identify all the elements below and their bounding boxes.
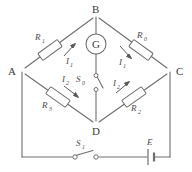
- resistor-r1-label: R 1: [34, 32, 45, 44]
- s1-subscript: 1: [82, 144, 85, 150]
- circuit-diagram: A B C D G R 1 R 0 R 3 R 2 I 1 I 1 I 2 I: [0, 0, 192, 172]
- resistor-r2-label: R 2: [130, 103, 141, 115]
- r2-letter: R: [130, 103, 137, 113]
- i1-bc-subscript: 1: [123, 63, 126, 69]
- battery-symbol: [148, 149, 154, 165]
- r1-letter: R: [34, 32, 41, 42]
- r2-subscript: 2: [138, 109, 141, 115]
- current-label-i2-dc: I 2: [112, 78, 120, 90]
- switch-main-terminal-right[interactable]: [94, 155, 98, 159]
- battery-label: E: [146, 137, 153, 147]
- node-label-B: B: [92, 3, 99, 15]
- r3-letter: R: [41, 100, 48, 110]
- i1-ab-subscript: 1: [70, 62, 73, 68]
- r0-letter: R: [136, 30, 143, 40]
- switch-bridge-label: S 0: [76, 74, 85, 86]
- node-label-D: D: [92, 125, 100, 137]
- resistor-r3-label: R 3: [41, 100, 52, 112]
- resistor-r3: [46, 87, 71, 108]
- galvanometer-label: G: [92, 38, 100, 50]
- node-label-A: A: [8, 65, 16, 77]
- switch-main-blade[interactable]: [77, 151, 94, 156]
- resistor-r0: [129, 39, 153, 60]
- branch-A-B: [25, 18, 93, 68]
- i2-dc-subscript: 2: [117, 84, 120, 90]
- current-arrow-i2-ad: [64, 86, 79, 98]
- i2-ad-subscript: 2: [66, 80, 69, 86]
- switch-bridge-blade[interactable]: [98, 78, 104, 89]
- r1-subscript: 1: [42, 38, 45, 44]
- s0-letter: S: [76, 74, 81, 84]
- node-label-C: C: [176, 65, 183, 77]
- branch-B-C: [99, 18, 167, 68]
- resistor-r0-label: R 0: [136, 30, 147, 42]
- r3-subscript: 3: [48, 106, 52, 112]
- switch-main-label: S 1: [76, 138, 85, 150]
- switch-bridge-terminal-top[interactable]: [94, 74, 98, 78]
- current-label-i1-bc: I 1: [118, 57, 126, 69]
- current-arrow-i1-ab: [64, 44, 76, 57]
- branch-B-D: [86, 17, 106, 121]
- s1-letter: S: [76, 138, 81, 148]
- switch-bridge-terminal-bottom[interactable]: [94, 88, 98, 92]
- current-label-i2-ad: I 2: [61, 74, 69, 86]
- current-label-i1-ab: I 1: [65, 56, 73, 68]
- branch-D-C: [99, 74, 167, 122]
- s0-subscript: 0: [82, 80, 85, 86]
- r0-subscript: 0: [144, 36, 147, 42]
